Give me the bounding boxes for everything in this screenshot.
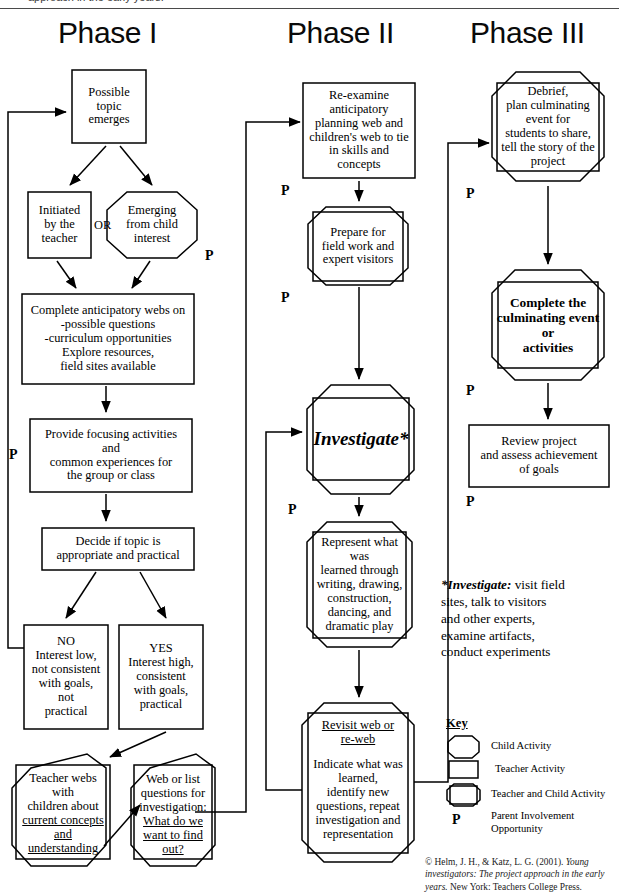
- parent-marker-p1a: P: [205, 248, 214, 264]
- node-represent: Represent what was learned through writi…: [311, 532, 408, 638]
- phase-1-heading: Phase I: [58, 16, 157, 50]
- citation-suffix: New York: Teachers College Press.: [448, 882, 582, 892]
- node-emerging-child: Emerging from child interest: [107, 192, 197, 258]
- arrow-decide-to-no: [66, 572, 96, 618]
- node-web-or-list-top: Web or list questions for investigation:: [134, 772, 212, 816]
- node-web-or-list-underlined: What do we want to find out?: [134, 814, 212, 858]
- parent-marker-p3c: P: [466, 494, 475, 510]
- citation-prefix: © Helm, J. H., & Katz, L. G. (2001).: [425, 857, 566, 867]
- node-revisit-web-heading: Revisit web or re-web: [308, 716, 408, 750]
- arrow-emerging-to-webs: [132, 261, 150, 288]
- node-initiated-teacher: Initiated by the teacher: [28, 192, 91, 258]
- key-title: Key: [446, 716, 468, 731]
- node-debrief: Debrief, plan culminating event for stud…: [497, 83, 599, 171]
- node-teacher-webs-top: Teacher webs with children about: [16, 772, 110, 814]
- key-label-parent-involvement: Parent Involvement Opportunity: [491, 810, 574, 835]
- arrow-initiated-to-webs: [57, 261, 76, 288]
- investigate-footnote-term: *Investigate:: [441, 577, 511, 592]
- arrow-topic-to-emerging: [120, 146, 152, 185]
- key-label-child-activity: Child Activity: [491, 740, 551, 753]
- parent-marker-p3a: P: [466, 186, 475, 202]
- arrow-yes-to-webs-pair: [110, 732, 166, 757]
- key-shape-teacher-child-rect: [450, 786, 477, 804]
- parent-marker-p2b: P: [281, 290, 290, 306]
- node-teacher-webs-underlined: current concepts and understanding: [16, 813, 110, 857]
- node-review-project: Review project and assess achievement of…: [469, 425, 609, 487]
- phase-3-heading: Phase III: [470, 16, 585, 50]
- node-re-examine: Re-examine anticipatory planning web and…: [303, 83, 415, 178]
- node-complete-event: Complete the culminating event or activi…: [494, 282, 602, 368]
- key-shape-teacher-child-octagon: [447, 784, 480, 806]
- key-shape-parent-p: P: [452, 812, 461, 828]
- node-no-branch: NO Interest low, not consistent with goa…: [24, 625, 108, 729]
- key-label-teacher-activity: Teacher Activity: [495, 763, 565, 776]
- parent-marker-p3b: P: [466, 383, 475, 399]
- connector-phase1-to-phase2: [195, 122, 300, 812]
- key-shape-child-activity: [448, 736, 479, 758]
- parent-marker-p1b: P: [9, 447, 18, 463]
- flowchart-diagram: approach in the early years.: [0, 0, 619, 896]
- arrow-topic-to-initiated: [70, 146, 106, 185]
- node-revisit-web-body: Indicate what was learned, identify new …: [306, 750, 410, 850]
- node-yes-branch: YES Interest high, consistent with goals…: [119, 625, 203, 729]
- node-prepare-field: Prepare for field work and expert visito…: [313, 212, 403, 281]
- node-focusing-activities: Provide focusing activities and common e…: [30, 419, 192, 492]
- node-decide-topic: Decide if topic is appropriate and pract…: [42, 528, 194, 570]
- key-label-teacher-child-activity: Teacher and Child Activity: [491, 788, 605, 801]
- phase-2-heading: Phase II: [287, 16, 394, 50]
- investigate-footnote: *Investigate: visit field sites, talk to…: [441, 560, 617, 661]
- parent-marker-p2a: P: [281, 183, 290, 199]
- arrow-decide-to-yes: [140, 572, 166, 618]
- key-shape-teacher-activity: [449, 761, 478, 778]
- node-anticipatory-webs: Complete anticipatory webs on -possible …: [24, 294, 192, 384]
- arrow-revisit-loop-to-investigate: [266, 432, 302, 790]
- parent-marker-p2c: P: [288, 502, 297, 518]
- node-investigate: Investigate*: [313, 398, 409, 480]
- node-possible-topic: Possible topic emerges: [72, 70, 146, 143]
- citation: © Helm, J. H., & Katz, L. G. (2001). You…: [425, 856, 615, 893]
